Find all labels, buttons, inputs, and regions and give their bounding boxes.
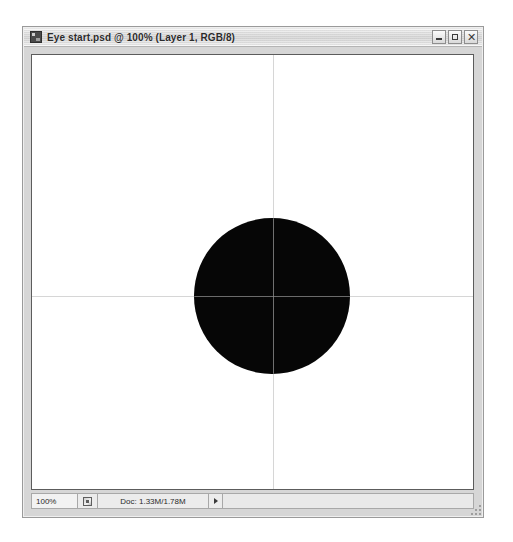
window-controls: ✕ xyxy=(432,30,478,44)
window-title-bar[interactable]: Eye start.psd @ 100% (Layer 1, RGB/8) ✕ xyxy=(24,28,482,47)
canvas-surface[interactable] xyxy=(32,55,473,489)
proof-setup-icon xyxy=(83,497,92,506)
window-title-text: Eye start.psd @ 100% (Layer 1, RGB/8) xyxy=(47,32,235,43)
status-bar: 100% Doc: 1.33M/1.78M xyxy=(31,493,474,509)
zoom-level-value: 100% xyxy=(36,497,56,506)
close-icon: ✕ xyxy=(465,31,477,43)
status-options-button[interactable] xyxy=(209,494,223,508)
minimize-icon xyxy=(436,38,442,40)
proof-setup-button[interactable] xyxy=(78,494,98,508)
status-bar-filler xyxy=(223,494,473,508)
resize-grip[interactable] xyxy=(469,503,481,515)
maximize-button[interactable] xyxy=(448,30,462,44)
minimize-button[interactable] xyxy=(432,30,446,44)
photoshop-document-icon xyxy=(30,31,42,43)
canvas-viewport[interactable] xyxy=(31,54,474,490)
maximize-icon xyxy=(452,34,458,40)
caret-right-icon xyxy=(214,498,218,504)
zoom-level-field[interactable]: 100% xyxy=(32,494,78,508)
close-button[interactable]: ✕ xyxy=(464,30,478,44)
document-size-text: Doc: 1.33M/1.78M xyxy=(120,497,185,506)
document-size-field[interactable]: Doc: 1.33M/1.78M xyxy=(98,494,209,508)
photoshop-document-window[interactable]: Eye start.psd @ 100% (Layer 1, RGB/8) ✕ xyxy=(22,26,484,518)
